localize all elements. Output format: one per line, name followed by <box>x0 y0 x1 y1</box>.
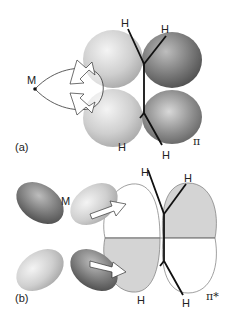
metal-atom-dot <box>33 87 37 91</box>
pi-lobe-top-right <box>142 32 202 88</box>
metal-label: M <box>27 74 36 86</box>
panel-b: H H H H M π* (b) <box>8 166 219 309</box>
h-label: H <box>182 297 190 309</box>
h-label: H <box>184 172 192 184</box>
h-label: H <box>121 17 129 29</box>
h-label: H <box>118 141 126 153</box>
h-label: H <box>161 23 169 35</box>
h-label: H <box>162 149 170 161</box>
orbital-label: π <box>193 135 200 148</box>
panel-label: (a) <box>15 141 28 153</box>
orbital-label: π* <box>206 290 219 303</box>
pistar-lobe-top-right <box>162 183 216 238</box>
pistar-lobe-bottom-right <box>162 238 216 293</box>
panel-label: (b) <box>15 292 28 304</box>
metal-label: M <box>61 195 70 207</box>
h-label: H <box>141 166 149 178</box>
orbital-diagram: H H H H M π (a) H H H H M π* (b) <box>0 0 236 323</box>
panel-a: H H H H M π (a) <box>15 17 202 161</box>
h-label: H <box>137 294 145 306</box>
d-lobe-bottom-left <box>8 240 71 299</box>
